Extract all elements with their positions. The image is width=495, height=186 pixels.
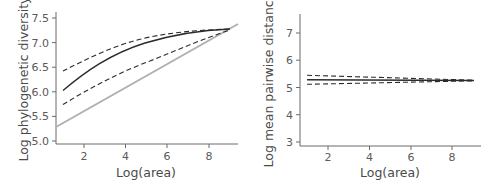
figure: 7.5 7.0 6.5 6.0 5.5 5.0 2 4 6 8 Log(area… xyxy=(0,0,495,186)
right-chart: 7 6 5 4 3 2 4 6 8 Log(area) Log mean pai… xyxy=(261,0,481,180)
left-xtick-label: 4 xyxy=(122,150,129,163)
left-xtick-label: 2 xyxy=(81,150,88,163)
left-ytick-label: 5.0 xyxy=(32,135,50,148)
left-chart: 7.5 7.0 6.5 6.0 5.5 5.0 2 4 6 8 Log(area… xyxy=(16,0,238,180)
right-xtick-label: 8 xyxy=(449,151,456,164)
right-ytick-label: 3 xyxy=(286,136,293,149)
left-x-axis-label: Log(area) xyxy=(116,165,176,180)
left-x-ticks xyxy=(84,144,209,148)
right-ytick-label: 5 xyxy=(286,82,293,95)
right-x-ticks xyxy=(328,146,452,150)
left-ytick-label: 6.5 xyxy=(32,61,50,74)
right-lower-ci xyxy=(307,81,474,85)
right-y-axis-label: Log mean pairwise distance xyxy=(261,0,276,167)
right-xtick-label: 2 xyxy=(325,151,332,164)
right-y-ticks xyxy=(296,33,300,142)
right-ytick-label: 6 xyxy=(286,54,293,67)
left-ytick-label: 7.0 xyxy=(32,37,50,50)
right-ytick-label: 7 xyxy=(286,27,293,40)
right-xtick-label: 6 xyxy=(408,151,415,164)
right-ytick-label: 4 xyxy=(286,109,293,122)
right-x-axis-label: Log(area) xyxy=(360,165,420,180)
left-xtick-label: 8 xyxy=(206,150,213,163)
right-fitted-line xyxy=(307,80,474,81)
left-ytick-label: 6.0 xyxy=(32,86,50,99)
left-y-axis-label: Log phylogenetic diversity xyxy=(16,0,31,162)
left-lower-ci xyxy=(63,30,230,105)
left-ytick-label: 5.5 xyxy=(32,110,50,123)
figure-canvas: 7.5 7.0 6.5 6.0 5.5 5.0 2 4 6 8 Log(area… xyxy=(0,0,495,186)
left-y-ticks xyxy=(52,18,56,141)
left-ytick-label: 7.5 xyxy=(32,12,50,25)
right-xtick-label: 4 xyxy=(366,151,373,164)
left-xtick-label: 6 xyxy=(164,150,171,163)
left-null-line xyxy=(56,24,238,127)
left-upper-ci xyxy=(63,29,230,71)
